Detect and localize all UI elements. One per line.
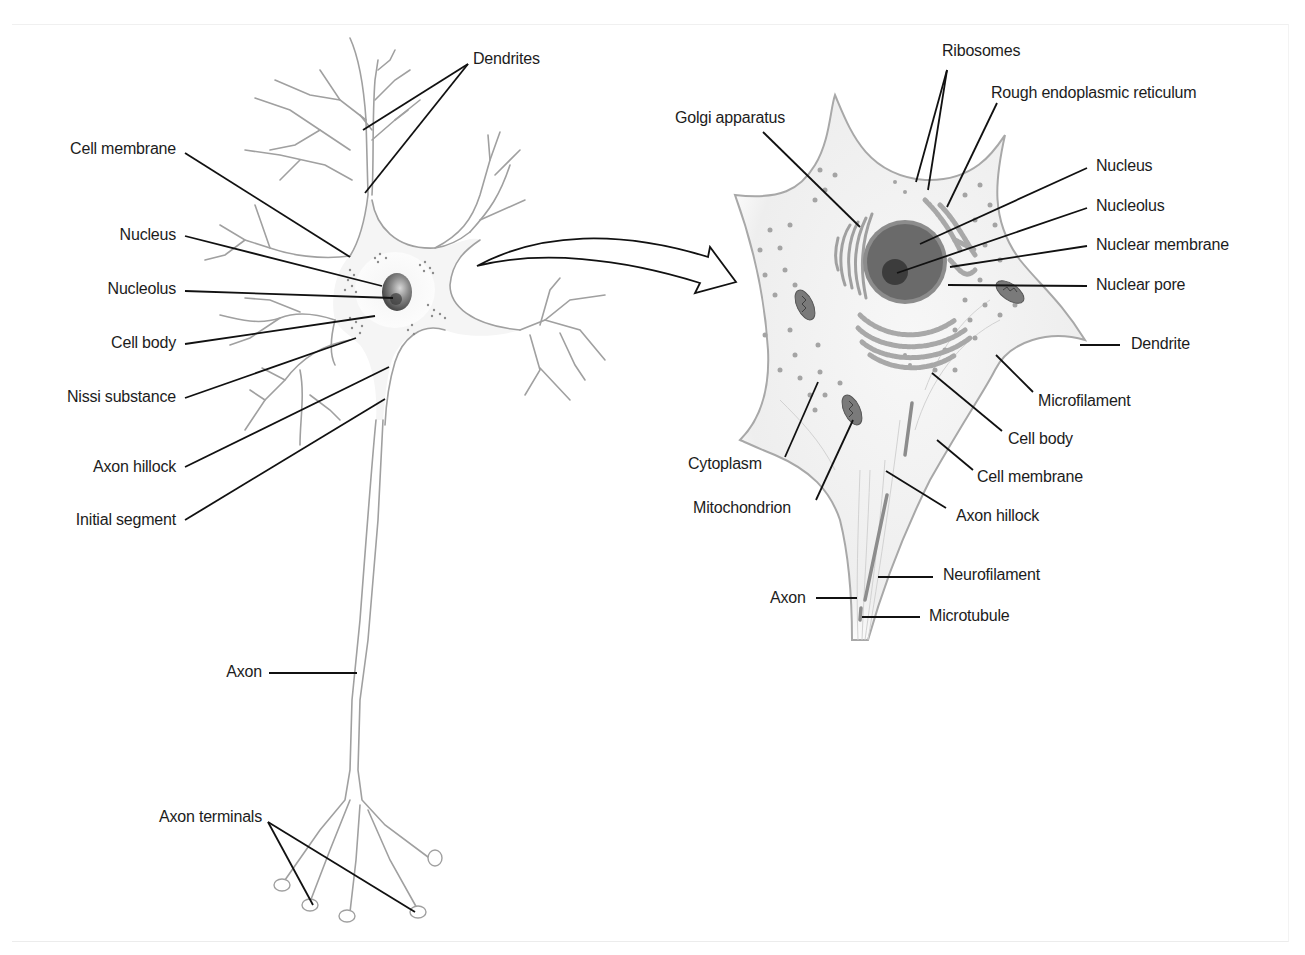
whole-neuron bbox=[205, 38, 605, 912]
label-neurofilament: Neurofilament bbox=[943, 566, 1040, 584]
label-cytoplasm: Cytoplasm bbox=[688, 455, 762, 473]
label-nuclear-pore: Nuclear pore bbox=[1096, 276, 1185, 294]
label-dendrites: Dendrites bbox=[473, 50, 540, 68]
label-nissl-substance: Nissi substance bbox=[0, 388, 176, 406]
label-axon-hillock-right: Axon hillock bbox=[956, 507, 1039, 525]
label-cell-body-right: Cell body bbox=[1008, 430, 1073, 448]
label-initial-segment: Initial segment bbox=[0, 511, 176, 529]
nucleus-small bbox=[382, 273, 412, 311]
magnify-arrow bbox=[477, 238, 736, 293]
label-dendrite-right: Dendrite bbox=[1131, 335, 1190, 353]
label-mitochondrion: Mitochondrion bbox=[693, 499, 791, 517]
label-nucleolus-right: Nucleolus bbox=[1096, 197, 1164, 215]
label-nucleus-left: Nucleus bbox=[0, 226, 176, 244]
label-cell-membrane-left: Cell membrane bbox=[0, 140, 176, 158]
label-rough-er: Rough endoplasmic reticulum bbox=[991, 84, 1196, 102]
label-golgi-apparatus: Golgi apparatus bbox=[675, 109, 785, 127]
label-nucleolus-left: Nucleolus bbox=[0, 280, 176, 298]
label-cell-membrane-right: Cell membrane bbox=[977, 468, 1083, 486]
label-nuclear-membrane: Nuclear membrane bbox=[1096, 236, 1229, 254]
cell-body-detail bbox=[735, 95, 1085, 640]
label-cell-body-left: Cell body bbox=[0, 334, 176, 352]
label-axon-left: Axon bbox=[0, 663, 262, 681]
label-axon-hillock-left: Axon hillock bbox=[0, 458, 176, 476]
label-nucleus-right: Nucleus bbox=[1096, 157, 1152, 175]
nucleolus-large bbox=[882, 259, 908, 285]
label-ribosomes: Ribosomes bbox=[942, 42, 1020, 60]
label-axon-terminals: Axon terminals bbox=[0, 808, 262, 826]
label-axon-right: Axon bbox=[770, 589, 806, 607]
nucleolus-small bbox=[390, 293, 402, 305]
label-microfilament: Microfilament bbox=[1038, 392, 1131, 410]
label-microtubule: Microtubule bbox=[929, 607, 1010, 625]
